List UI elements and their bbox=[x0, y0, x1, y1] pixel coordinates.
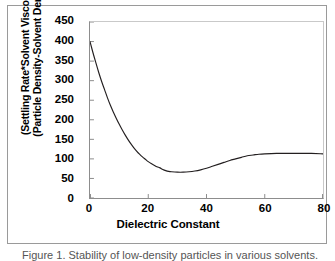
y-axis-tick-label: 200 bbox=[26, 114, 74, 125]
y-axis-tick-label: 400 bbox=[26, 35, 74, 46]
x-axis-tick-labels: 020406080 bbox=[89, 202, 324, 218]
x-axis-tick-label: 0 bbox=[86, 202, 92, 215]
x-axis-title: Dielectric Constant bbox=[8, 218, 328, 230]
y-axis-tick-label: 300 bbox=[26, 74, 74, 85]
chart-frame: (Settling Rate*Solvent Viscosity)/ (Part… bbox=[7, 5, 327, 244]
y-axis-tick-label: 350 bbox=[26, 55, 74, 66]
plot-svg bbox=[90, 22, 323, 198]
plot-area bbox=[89, 21, 324, 199]
y-axis-tick-label: 250 bbox=[26, 94, 74, 105]
y-axis-tick-label: 150 bbox=[26, 134, 74, 145]
y-axis-tick-label: 0 bbox=[26, 193, 74, 204]
y-axis-tick-label: 450 bbox=[26, 15, 74, 26]
y-axis-tick-labels: 050100150200250300350400450 bbox=[26, 16, 74, 198]
x-axis-tick-label: 20 bbox=[141, 202, 154, 215]
data-series-line bbox=[90, 42, 323, 173]
x-axis-tick-label: 60 bbox=[259, 202, 272, 215]
x-axis-tick-label: 80 bbox=[318, 202, 331, 215]
axis-tick-marks bbox=[90, 22, 323, 198]
y-axis-tick-label: 50 bbox=[26, 173, 74, 184]
y-axis-tick-label: 100 bbox=[26, 153, 74, 164]
figure-caption: Figure 1. Stability of low-density parti… bbox=[12, 249, 328, 261]
x-axis-tick-label: 40 bbox=[200, 202, 213, 215]
